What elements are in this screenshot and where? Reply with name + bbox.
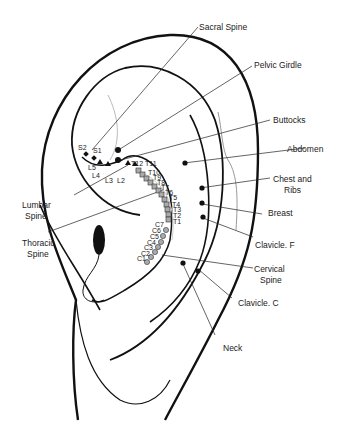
svg-text:T1: T1: [173, 218, 181, 225]
ear-diagram: S2 S1 L5 L4 L3 L2 T12 T11 T10 T9 T8 T7 T…: [0, 0, 345, 427]
label-sacral-spine: Sacral Spine: [199, 22, 247, 32]
svg-text:L2: L2: [117, 177, 125, 184]
label-abdomen: Abdomen: [287, 144, 324, 154]
svg-text:T5: T5: [169, 194, 177, 201]
label-buttocks: Buttocks: [273, 115, 306, 125]
svg-text:T12: T12: [131, 160, 143, 167]
label-cervical-spine-1: Cervical: [254, 264, 285, 274]
label-chest-ribs-1: Chest and: [273, 174, 312, 184]
svg-text:S2: S2: [78, 144, 87, 151]
label-breast: Breast: [268, 208, 293, 218]
svg-text:L3: L3: [105, 177, 113, 184]
label-clavicle-c: Clavicle. C: [238, 298, 279, 308]
label-cervical-spine-2: Spine: [260, 275, 282, 285]
label-clavicle-f: Clavicle. F: [255, 240, 295, 250]
label-lumbar-spine-1: Lumbar: [22, 200, 51, 210]
svg-text:S1: S1: [93, 147, 102, 154]
svg-text:L4: L4: [92, 172, 100, 179]
antihelix: [72, 66, 223, 360]
label-thoracic-spine-2: Spine: [27, 249, 49, 259]
label-neck: Neck: [223, 343, 243, 353]
label-thoracic-spine-1: Thoracic: [22, 238, 55, 248]
svg-text:L5: L5: [88, 164, 96, 171]
ear-canal: [93, 225, 105, 255]
label-chest-ribs-2: Ribs: [284, 185, 301, 195]
svg-text:T11: T11: [145, 160, 157, 167]
zone-dots: [115, 147, 206, 274]
tragus: [83, 255, 104, 302]
lobe: [76, 300, 170, 404]
svg-text:C1: C1: [137, 255, 146, 262]
label-lumbar-spine-2: Spine: [25, 211, 47, 221]
label-pelvic-girdle: Pelvic Girdle: [254, 60, 302, 70]
outer-helix: [42, 35, 258, 420]
